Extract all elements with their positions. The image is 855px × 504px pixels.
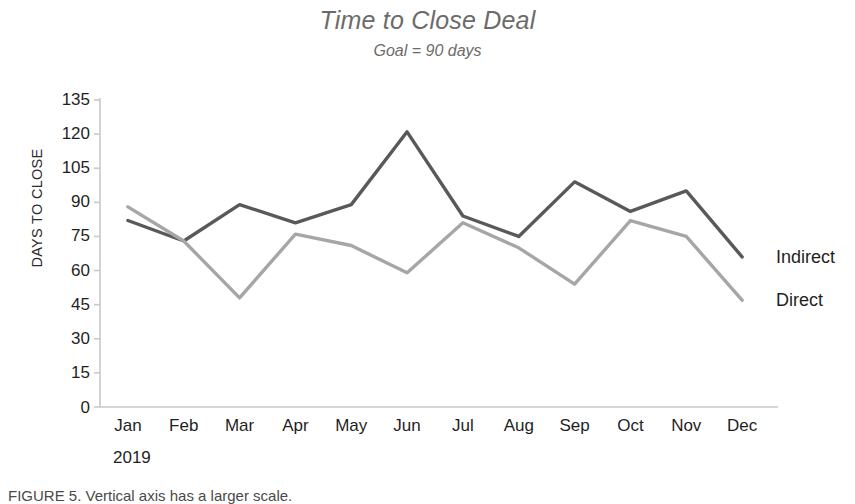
x-tick-label-feb: Feb [169, 416, 198, 436]
series-lines [128, 132, 742, 300]
figure-caption: FIGURE 5. Vertical axis has a larger sca… [8, 487, 292, 504]
y-tick-label: 120 [46, 125, 90, 142]
chart-title: Time to Close Deal [0, 6, 855, 35]
y-axis-label: DAYS TO CLOSE [29, 128, 45, 288]
y-tick-label: 60 [46, 262, 90, 279]
x-tick-label-jul: Jul [452, 416, 474, 436]
x-tick-label-nov: Nov [671, 416, 701, 436]
chart-subtitle: Goal = 90 days [0, 42, 855, 60]
x-tick-label-dec: Dec [727, 416, 757, 436]
y-axis-tick-labels: 135 120 105 90 75 60 45 30 15 0 [44, 0, 90, 499]
y-tick-label: 0 [46, 399, 90, 416]
legend-label-direct: Direct [776, 290, 823, 311]
y-tick-label: 45 [46, 296, 90, 313]
legend-label-indirect: Indirect [776, 247, 835, 268]
y-tick-label: 135 [46, 91, 90, 108]
y-tick-label: 105 [46, 159, 90, 176]
x-tick-label-apr: Apr [282, 416, 308, 436]
x-tick-label-jan: Jan [114, 416, 141, 436]
x-tick-label-may: May [335, 416, 367, 436]
series-line-direct [128, 207, 742, 300]
x-axis-label: 2019 [113, 448, 151, 468]
y-tick-label: 90 [46, 193, 90, 210]
y-tick-label: 15 [46, 364, 90, 381]
series-line-indirect [128, 132, 742, 257]
x-tick-label-sep: Sep [559, 416, 589, 436]
x-tick-label-oct: Oct [617, 416, 643, 436]
y-tick-label: 30 [46, 330, 90, 347]
x-tick-label-mar: Mar [225, 416, 254, 436]
y-tick-label: 75 [46, 227, 90, 244]
x-tick-label-jun: Jun [393, 416, 420, 436]
x-tick-label-aug: Aug [504, 416, 534, 436]
